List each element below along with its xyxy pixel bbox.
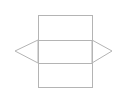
left-triangle-face: [15, 40, 38, 63]
prism-net-svg: [0, 0, 113, 98]
prism-net-diagram: [0, 0, 113, 98]
right-triangle-face: [92, 40, 112, 63]
middle-rectangle-face: [39, 41, 93, 64]
top-rectangle-face: [39, 16, 93, 41]
bottom-rectangle-face: [39, 64, 93, 88]
